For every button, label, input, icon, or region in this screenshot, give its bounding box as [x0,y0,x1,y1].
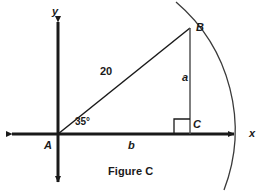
figure-caption: Figure C [108,166,153,177]
geometry-figure: y x A B C a b 20 35° Figure C [0,0,263,192]
vertex-label-b: B [196,22,204,33]
vertex-label-a: A [44,140,52,151]
side-label-a: a [182,72,188,83]
figure-canvas [0,0,263,192]
angle-measure-label: 35° [75,117,90,127]
x-axis-label: x [249,128,255,139]
y-axis-label: y [52,6,58,17]
hypotenuse-measure-label: 20 [100,66,112,77]
vertex-label-c: C [193,119,201,130]
right-angle-marker-icon [174,119,190,134]
circular-arc [176,2,235,190]
side-label-b: b [128,140,135,151]
